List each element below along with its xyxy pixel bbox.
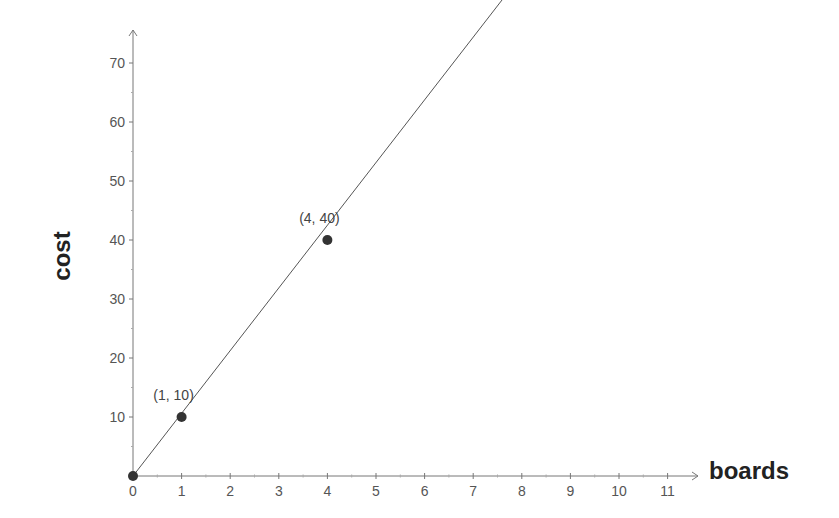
data-point <box>128 471 138 481</box>
chart-canvas: 0123456789101110203040506070 (1, 10)(4, … <box>0 0 839 518</box>
y-tick-label: 70 <box>109 55 125 71</box>
x-tick-label: 9 <box>567 483 575 499</box>
x-axis-title: boards <box>709 457 789 484</box>
axes <box>129 30 698 480</box>
x-tick-label: 2 <box>226 483 234 499</box>
y-tick-label: 40 <box>109 232 125 248</box>
x-tick-label: 1 <box>178 483 186 499</box>
y-tick-label: 20 <box>109 350 125 366</box>
x-tick-label: 0 <box>129 483 137 499</box>
x-tick-label: 8 <box>518 483 526 499</box>
data-line <box>133 0 502 476</box>
y-tick-label: 50 <box>109 173 125 189</box>
point-label: (1, 10) <box>153 387 193 403</box>
y-tick-label: 30 <box>109 291 125 307</box>
series-line <box>133 0 502 476</box>
x-tick-label: 11 <box>660 483 675 499</box>
x-tick-label: 7 <box>469 483 477 499</box>
y-tick-label: 10 <box>109 409 125 425</box>
ticks: 0123456789101110203040506070 <box>109 55 675 499</box>
data-point <box>177 412 187 422</box>
point-label: (4, 40) <box>299 210 339 226</box>
x-tick-label: 5 <box>372 483 380 499</box>
y-tick-label: 60 <box>109 114 125 130</box>
x-tick-label: 10 <box>611 483 627 499</box>
x-tick-label: 4 <box>324 483 332 499</box>
data-point <box>322 235 332 245</box>
x-tick-label: 3 <box>275 483 283 499</box>
y-axis-title: cost <box>48 231 75 280</box>
x-tick-label: 6 <box>421 483 429 499</box>
